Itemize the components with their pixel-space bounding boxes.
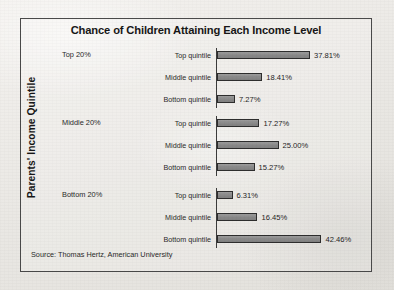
category-label: Top quintile [175, 51, 211, 60]
category-label: Middle quintile [165, 213, 211, 222]
bar-row: Middle quintile18.41% [48, 72, 368, 83]
category-label: Top quintile [175, 119, 211, 128]
category-label: Top quintile [175, 191, 211, 200]
category-label: Middle quintile [165, 73, 211, 82]
bar-row: Top quintile17.27% [48, 118, 368, 129]
bar-row: Top quintile6.31% [48, 190, 368, 201]
category-label: Bottom quintile [163, 95, 211, 104]
category-label: Bottom quintile [163, 163, 211, 172]
bar [217, 95, 235, 103]
bar-value-label: 17.27% [263, 119, 289, 128]
bar [217, 51, 310, 59]
chart-figure: Chance of Children Attaining Each Income… [0, 0, 394, 290]
bar-value-label: 7.27% [239, 95, 261, 104]
bar-row: Middle quintile16.45% [48, 212, 368, 223]
bar-value-label: 15.27% [259, 163, 285, 172]
bar-value-label: 37.81% [314, 51, 340, 60]
bar-value-label: 16.45% [261, 213, 287, 222]
bar [217, 73, 262, 81]
bar [217, 213, 257, 221]
bar-row: Bottom quintile42.46% [48, 234, 368, 245]
category-label: Bottom quintile [163, 235, 211, 244]
bar-value-label: 18.41% [266, 73, 292, 82]
category-label: Middle quintile [165, 141, 211, 150]
chart-title: Chance of Children Attaining Each Income… [20, 24, 372, 36]
source-note: Source: Thomas Hertz, American Universit… [31, 250, 172, 259]
bar [217, 235, 321, 243]
bar-value-label: 25.00% [283, 141, 309, 150]
y-axis-label: Parents' Income Quintile [24, 52, 40, 222]
bar-row: Bottom quintile7.27% [48, 94, 368, 105]
bar [217, 191, 233, 199]
bar-row: Middle quintile25.00% [48, 140, 368, 151]
bar-row: Bottom quintile15.27% [48, 162, 368, 173]
bar [217, 119, 259, 127]
bar-value-label: 6.31% [237, 191, 259, 200]
bar [217, 141, 279, 149]
bar-row: Top quintile37.81% [48, 50, 368, 61]
y-axis-label-text: Parents' Income Quintile [27, 76, 38, 197]
bar [217, 163, 255, 171]
bar-value-label: 42.46% [325, 235, 351, 244]
